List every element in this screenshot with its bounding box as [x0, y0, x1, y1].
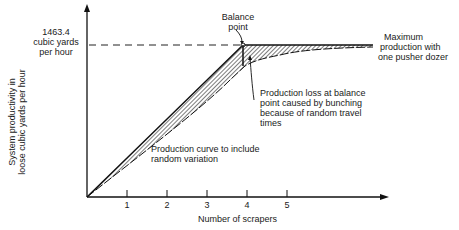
production-loss-label: Production loss at balance point caused …	[260, 88, 366, 128]
y-reference-value: 1463.4	[28, 27, 84, 37]
x-axis-label: Number of scrapers	[198, 214, 277, 224]
max-label-line-3: one pusher dozer	[378, 52, 448, 62]
loss-label-line-1: Production loss at balance	[260, 88, 366, 98]
x-tick-3: 3	[202, 200, 212, 210]
random-curve-label: Production curve to include random varia…	[151, 144, 260, 164]
loss-arrow-icon	[250, 58, 254, 100]
loss-label-line-4: times	[260, 118, 366, 128]
x-axis-arrow-icon	[380, 194, 389, 200]
x-tick-2: 2	[162, 200, 172, 210]
curve-label-line-1: Production curve to include	[151, 144, 260, 154]
balance-label-line-2: point	[218, 22, 258, 32]
y-axis-arrow-icon	[84, 4, 90, 12]
loss-label-line-2: point caused by bunching	[260, 98, 366, 108]
max-label-line-2: production with	[378, 42, 448, 52]
max-label-line-1: Maximum	[378, 32, 448, 42]
loss-label-line-3: because of random travel	[260, 108, 366, 118]
y-axis-label-line-2: loose cubic yards per hour	[17, 67, 27, 177]
y-reference-label: 1463.4 cubic yards per hour	[28, 27, 84, 57]
max-production-label: Maximum production with one pusher dozer	[378, 32, 448, 62]
x-tick-5: 5	[282, 200, 292, 210]
y-reference-unit-1: cubic yards	[28, 37, 84, 47]
y-reference-unit-2: per hour	[28, 47, 84, 57]
x-tick-4: 4	[242, 200, 252, 210]
balance-label-line-1: Balance	[218, 12, 258, 22]
curve-label-line-2: random variation	[151, 154, 260, 164]
y-axis-label: System productivity in loose cubic yards…	[7, 67, 27, 177]
balance-point-label: Balance point	[218, 12, 258, 32]
x-tick-1: 1	[122, 200, 132, 210]
y-axis-label-line-1: System productivity in	[7, 67, 17, 177]
